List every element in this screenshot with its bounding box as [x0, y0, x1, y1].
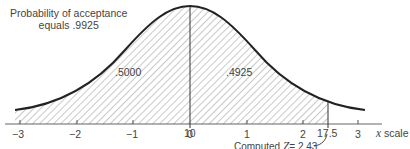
x-scale-var: x: [376, 127, 381, 139]
x-scale-word: scale: [384, 127, 409, 139]
right-area-label: .4925: [226, 66, 252, 78]
z-tick-2: 2: [300, 128, 306, 140]
z-tick-0: 0: [187, 128, 193, 140]
z-tick-1: 1: [244, 128, 250, 140]
acceptance-annotation: Probability of acceptance equals .9925: [10, 7, 127, 31]
z-tick-neg3: −3: [12, 128, 24, 140]
computed-value: = 2.43: [289, 141, 317, 149]
annotation-line-2: equals .9925: [10, 19, 127, 31]
computed-prefix: Computed: [234, 141, 280, 149]
annotation-line-1: Probability of acceptance: [10, 7, 127, 19]
x-scale-label: x scale: [376, 127, 409, 139]
z-tick-3: 3: [355, 128, 361, 140]
left-area-label: .5000: [115, 66, 141, 78]
z-tick-neg2: −2: [69, 128, 81, 140]
x-limit-label: 17.5: [317, 127, 337, 139]
computed-z-label: Computed Z= 2.43: [234, 140, 317, 149]
z-tick-neg1: −1: [126, 128, 138, 140]
